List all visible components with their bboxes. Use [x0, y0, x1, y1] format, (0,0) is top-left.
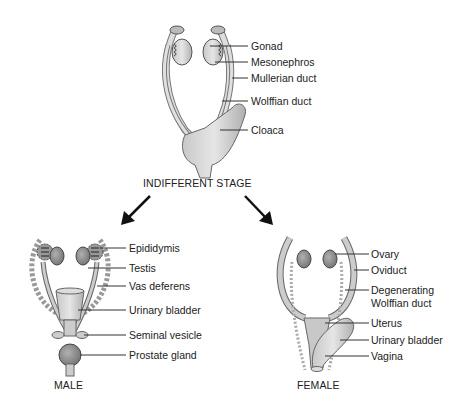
label-oviduct: Oviduct	[371, 264, 407, 276]
male-illustration	[32, 240, 108, 376]
label-vagina: Vagina	[371, 350, 403, 362]
label-gonad: Gonad	[251, 40, 283, 52]
label-wolffian-duct-female: Wolffian duct	[371, 297, 431, 309]
label-seminal-vesicle: Seminal vesicle	[129, 329, 202, 341]
arrow-to-male	[121, 196, 150, 225]
label-urinary-bladder-female: Urinary bladder	[371, 334, 443, 346]
label-testis: Testis	[129, 262, 156, 274]
label-ovary: Ovary	[371, 248, 399, 260]
label-vas-deferens: Vas deferens	[129, 280, 190, 292]
label-prostate-gland: Prostate gland	[129, 349, 197, 361]
female-title: FEMALE	[297, 379, 340, 391]
label-epididymis: Epididymis	[129, 242, 180, 254]
label-mesonephros: Mesonephros	[251, 56, 315, 68]
indifferent-stage-title: INDIFFERENT STAGE	[143, 177, 252, 189]
indifferent-stage-illustration	[165, 26, 246, 178]
male-title: MALE	[54, 379, 83, 391]
label-mullerian-duct: Mullerian duct	[251, 72, 316, 84]
label-cloaca: Cloaca	[251, 124, 284, 136]
diagram-canvas	[0, 0, 461, 410]
female-illustration	[280, 238, 354, 372]
arrow-to-female	[245, 196, 273, 225]
label-degenerating: Degenerating	[371, 284, 434, 296]
label-urinary-bladder-male: Urinary bladder	[129, 304, 201, 316]
label-wolffian-duct: Wolffian duct	[251, 95, 311, 107]
label-uterus: Uterus	[371, 317, 402, 329]
